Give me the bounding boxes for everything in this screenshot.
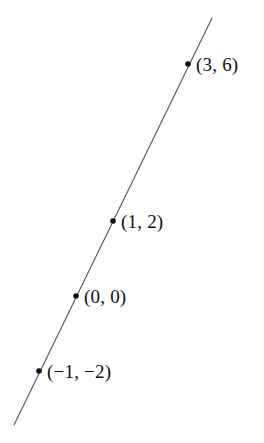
data-point-marker (73, 293, 79, 299)
point-label-3-6: (3, 6) (196, 55, 238, 74)
point-label-1-2: (1, 2) (121, 212, 163, 231)
point-label-0-0: (0, 0) (84, 287, 126, 306)
point-label-neg1-neg2: (−1, −2) (47, 362, 111, 381)
data-point-marker (110, 218, 116, 224)
data-point-marker (185, 61, 191, 67)
data-point-marker (36, 368, 42, 374)
line-plot-figure: (3, 6) (1, 2) (0, 0) (−1, −2) (0, 0, 264, 443)
